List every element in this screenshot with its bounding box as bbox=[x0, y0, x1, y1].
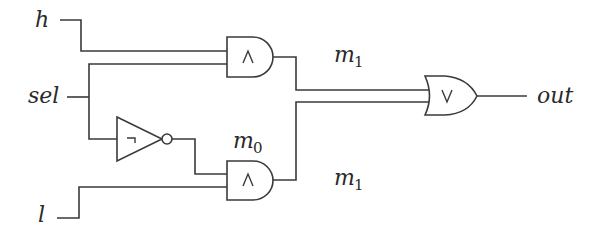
svg-text:m: m bbox=[233, 128, 254, 153]
input-label-sel: sel bbox=[28, 83, 59, 108]
circuit-diagram: h sel l m 1 m 0 m 1 out bbox=[0, 0, 598, 239]
and-gate-top bbox=[227, 37, 273, 77]
wire-sel bbox=[89, 64, 227, 139]
svg-text:1: 1 bbox=[354, 176, 364, 194]
svg-text:m: m bbox=[334, 42, 355, 67]
or-gate bbox=[425, 76, 477, 115]
output-label-out: out bbox=[537, 83, 573, 108]
signal-label-m1-bottom: m 1 bbox=[334, 165, 364, 194]
not-gate bbox=[117, 117, 172, 161]
wire-h bbox=[60, 20, 227, 51]
wire-m0 bbox=[172, 139, 227, 174]
svg-text:0: 0 bbox=[253, 139, 263, 157]
input-label-l: l bbox=[38, 202, 45, 227]
svg-text:1: 1 bbox=[354, 53, 364, 71]
input-label-h: h bbox=[35, 7, 49, 32]
wire-l bbox=[57, 187, 227, 218]
signal-label-m1-top: m 1 bbox=[334, 42, 364, 71]
and-gate-bottom bbox=[227, 161, 273, 200]
signal-label-m0: m 0 bbox=[233, 128, 263, 157]
inversion-bubble-icon bbox=[162, 134, 172, 144]
svg-text:m: m bbox=[334, 165, 355, 190]
